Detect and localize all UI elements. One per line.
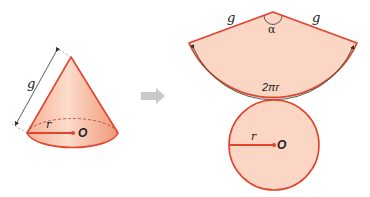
sector-angle-label: α — [268, 23, 276, 36]
net-base-circle: r O — [229, 100, 319, 190]
base-center-dot — [272, 143, 276, 147]
base-center-label: O — [277, 138, 287, 152]
sector-arc-label: 2πr — [261, 81, 280, 93]
sector-right-side-label: g — [312, 10, 320, 25]
cone-figure: r O g — [12, 47, 118, 148]
dim-extension-bottom — [12, 124, 27, 133]
cone-slant-label: g — [27, 76, 35, 91]
cone-center-label: O — [78, 126, 88, 140]
net-sector: α g g 2πr — [189, 10, 357, 100]
cone-radius-label: r — [46, 118, 52, 131]
cone-net-diagram: r O g α g g 2πr r O — [0, 0, 370, 197]
cone-center-dot — [71, 131, 75, 135]
right-arrow-icon — [141, 88, 165, 104]
dim-extension-top — [55, 47, 71, 57]
base-radius-label: r — [251, 130, 257, 143]
sector-left-side-label: g — [227, 10, 235, 25]
